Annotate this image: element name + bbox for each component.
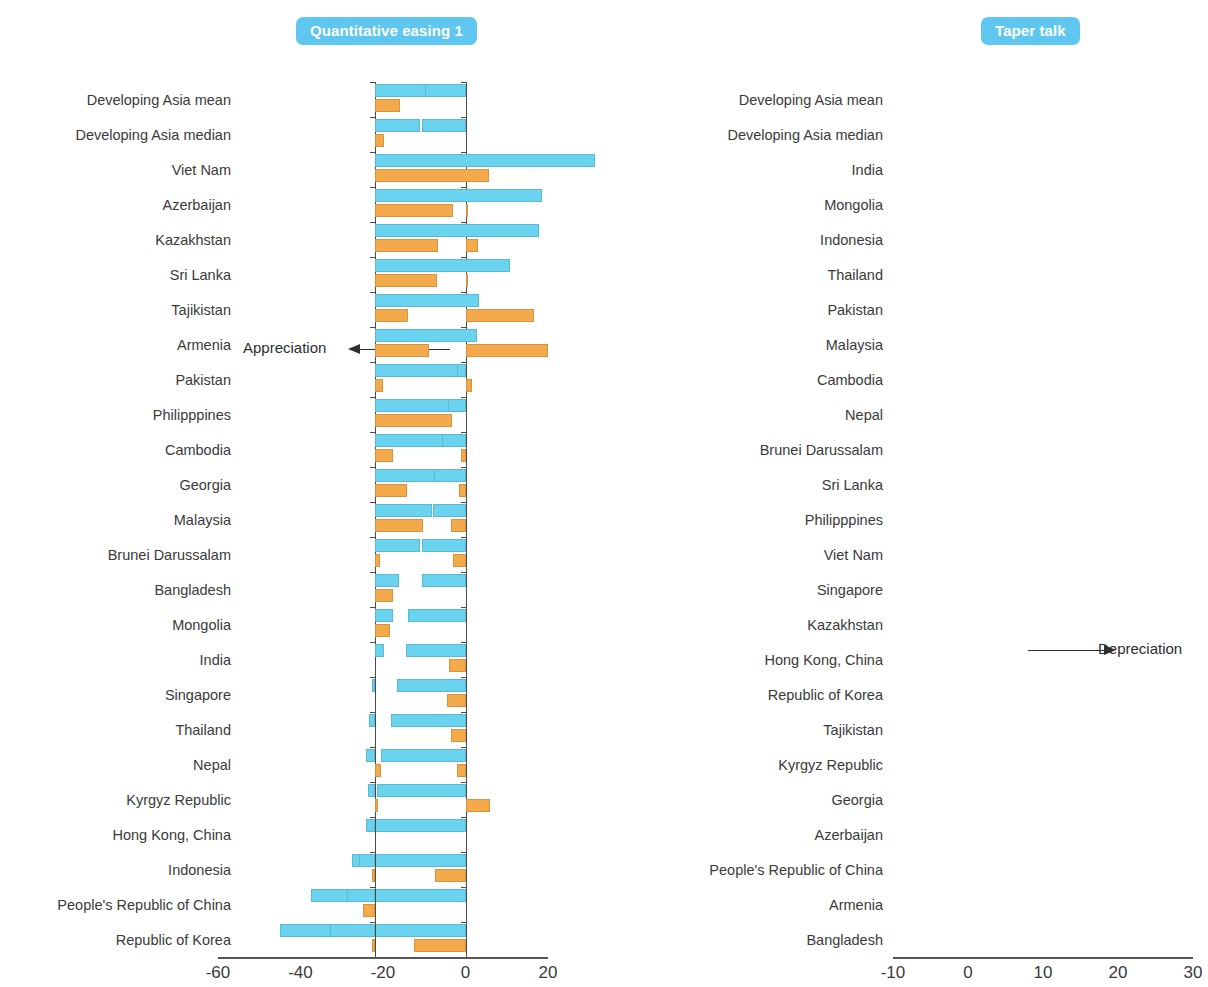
x-tick-label: -20 [371,963,396,983]
bar-orange [375,309,408,322]
x-axis-left [218,957,548,959]
category-label: Sri Lanka [170,267,231,283]
category-tick [370,572,375,573]
x-tick-label: -40 [288,963,313,983]
bar-blue [368,784,376,797]
category-label: Armenia [829,897,883,913]
category-label: Pakistan [827,302,883,318]
bar-blue [366,819,375,832]
bar-orange [375,449,393,462]
category-label: Singapore [165,687,231,703]
bar-orange [375,589,393,602]
bar-row [300,712,588,747]
bar-rows-right [300,82,588,957]
category-tick [370,362,375,363]
category-label: Bangladesh [806,932,883,948]
bar-blue [375,224,539,237]
category-label: Republic of Korea [768,687,883,703]
category-label: Singapore [817,582,883,598]
bar-row [300,502,588,537]
bar-orange [375,344,429,357]
bar-blue [375,399,449,412]
bar-blue [375,609,393,622]
bar-orange [375,764,381,777]
x-axis-right [893,957,1193,959]
bar-blue [375,294,479,307]
bar-row [300,327,588,362]
category-label: Brunei Darussalam [760,442,883,458]
bar-orange [375,204,453,217]
category-tick [370,712,375,713]
bar-orange [375,414,452,427]
bar-blue [375,154,595,167]
x-tick-label: 0 [461,963,470,983]
bar-row [300,82,588,117]
bar-orange [372,869,375,882]
bar-blue [375,469,435,482]
bar-blue [375,644,384,657]
category-label: Tajikistan [823,722,883,738]
category-label: Developing Asia median [727,127,883,143]
category-label: Tajikistan [171,302,231,318]
category-tick [370,117,375,118]
category-label: Indonesia [168,862,231,878]
category-label: Developing Asia median [75,127,231,143]
category-label: Armenia [177,337,231,353]
category-label: Thailand [827,267,883,283]
bar-row [300,677,588,712]
category-label: Kyrgyz Republic [778,757,883,773]
category-tick [370,887,375,888]
x-tick-label: 10 [1034,963,1053,983]
category-label: Philipppines [805,512,883,528]
category-tick [370,922,375,923]
bar-blue [375,84,426,97]
category-label: Hong Kong, China [765,652,884,668]
category-label: Mongolia [824,197,883,213]
bar-blue [375,259,510,272]
category-tick [370,677,375,678]
category-label: Mongolia [172,617,231,633]
bar-orange [375,519,423,532]
category-tick [370,397,375,398]
bar-row [300,467,588,502]
category-label: People's Republic of China [57,897,231,913]
bar-row [300,887,588,922]
bar-blue [375,574,399,587]
bar-blue [366,749,375,762]
category-tick [370,817,375,818]
category-tick [370,782,375,783]
bar-orange [363,904,375,917]
category-tick [370,257,375,258]
bar-row [300,607,588,642]
figure-root: Quantitative easing 1 Developing Asia me… [0,0,1208,987]
category-label: India [200,652,231,668]
category-label: Indonesia [820,232,883,248]
category-label: Nepal [845,407,883,423]
bar-row [300,222,588,257]
bar-blue [372,679,375,692]
category-label: Kyrgyz Republic [126,792,231,808]
bar-row [300,187,588,222]
category-label: Azerbaijan [162,197,231,213]
bar-orange [375,274,437,287]
bar-row [300,817,588,852]
category-label: Azerbaijan [814,827,883,843]
x-tick-label: -10 [881,963,906,983]
bar-blue [347,889,376,902]
bar-orange [375,239,438,252]
category-tick [370,747,375,748]
bar-row [300,292,588,327]
bar-blue [375,189,542,202]
category-label: Georgia [179,477,231,493]
bar-row [300,572,588,607]
bar-blue [375,539,420,552]
bar-blue [375,504,432,517]
category-tick [370,152,375,153]
panel-title-left: Quantitative easing 1 [296,17,477,45]
bar-orange [375,554,380,567]
category-label: Republic of Korea [116,932,231,948]
bar-row [300,852,588,887]
x-tick-label: -60 [206,963,231,983]
category-tick [370,607,375,608]
category-tick [370,642,375,643]
